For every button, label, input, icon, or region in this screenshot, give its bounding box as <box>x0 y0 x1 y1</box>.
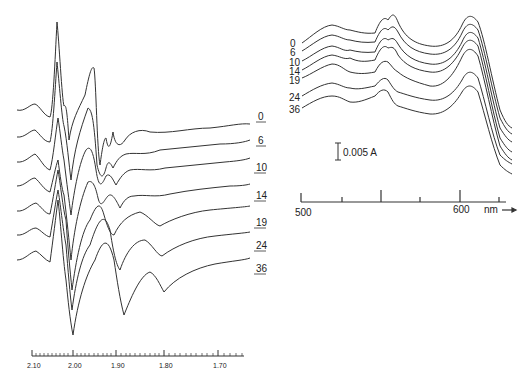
optical-trace-36 <box>302 86 512 174</box>
epr-label-6: 6 <box>258 135 264 146</box>
absorbance-scale-bar: 0.005 A <box>335 143 377 160</box>
epr-label-14: 14 <box>256 190 268 201</box>
epr-label-10: 10 <box>256 162 268 173</box>
optical-trace-24 <box>302 72 512 164</box>
optical-x-tick-labels: 500 600 nm <box>295 204 498 218</box>
tick-600: 600 <box>453 204 470 215</box>
optical-trace-19 <box>302 49 512 160</box>
scale-bar-label: 0.005 A <box>343 147 377 158</box>
epr-label-24: 24 <box>256 240 268 251</box>
epr-trace-labels: 0 6 10 14 19 24 36 <box>254 111 268 274</box>
tick-1.90: 1.90 <box>111 362 125 369</box>
optical-label-24: 24 <box>289 92 301 103</box>
figure: 0 6 10 14 19 24 36 <box>0 0 530 392</box>
optical-label-36: 36 <box>289 104 301 115</box>
unit-label: nm <box>484 204 498 215</box>
epr-x-axis <box>32 350 244 356</box>
tick-1.80: 1.80 <box>159 362 173 369</box>
epr-label-36: 36 <box>256 263 268 274</box>
tick-2.10: 2.10 <box>27 362 41 369</box>
optical-traces <box>302 15 512 174</box>
epr-label-0: 0 <box>258 111 264 122</box>
arrow-right-icon <box>502 208 516 212</box>
optical-trace-6 <box>302 24 512 134</box>
epr-x-tick-labels: 2.10 2.00 1.90 1.80 1.70 <box>27 362 227 369</box>
epr-trace-36 <box>17 200 250 335</box>
tick-2.00: 2.00 <box>68 362 82 369</box>
epr-traces <box>17 22 250 335</box>
optical-trace-labels: 0 6 10 14 19 24 36 <box>289 38 301 115</box>
epr-label-19: 19 <box>256 217 268 228</box>
optical-x-axis <box>301 190 506 202</box>
epr-trace-0 <box>17 22 250 165</box>
tick-1.70: 1.70 <box>213 362 227 369</box>
tick-500: 500 <box>295 207 312 218</box>
optical-label-19: 19 <box>289 75 301 86</box>
optical-trace-0 <box>302 15 512 128</box>
